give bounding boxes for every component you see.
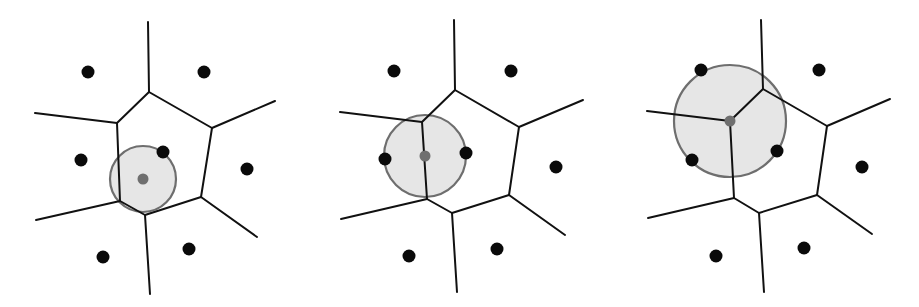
voronoi-edge <box>452 213 457 292</box>
voronoi-edge <box>148 22 149 92</box>
voronoi-edge <box>817 126 827 195</box>
voronoi-figure-canvas <box>0 0 919 307</box>
circle-center-point <box>420 151 431 162</box>
panel-circle-at-vertex <box>647 20 890 292</box>
voronoi-edge <box>35 113 117 123</box>
site-point <box>550 161 563 174</box>
site-point <box>505 65 518 78</box>
site-point <box>157 146 170 159</box>
site-point <box>379 153 392 166</box>
voronoi-edge <box>452 195 509 213</box>
site-point <box>813 64 826 77</box>
site-point <box>198 66 211 79</box>
voronoi-edge <box>509 127 519 195</box>
site-point <box>388 65 401 78</box>
site-point <box>686 154 699 167</box>
voronoi-edge <box>817 195 872 234</box>
voronoi-edge <box>117 92 149 123</box>
voronoi-edge <box>201 128 212 197</box>
voronoi-edge <box>212 101 275 128</box>
site-point <box>82 66 95 79</box>
site-point <box>97 251 110 264</box>
site-point <box>460 147 473 160</box>
circle-center-point <box>725 116 736 127</box>
voronoi-edge <box>827 99 890 126</box>
site-point <box>241 163 254 176</box>
voronoi-edge <box>509 195 565 235</box>
voronoi-diagram-figure <box>0 0 919 307</box>
voronoi-edge <box>519 100 583 127</box>
panel-circle-inside-cell <box>35 22 275 294</box>
voronoi-edge <box>759 213 764 292</box>
panel-circle-on-edge <box>340 20 583 292</box>
voronoi-edge <box>341 199 427 219</box>
site-point <box>491 243 504 256</box>
site-point <box>75 154 88 167</box>
voronoi-edge <box>455 90 519 127</box>
site-point <box>403 250 416 263</box>
voronoi-edge <box>648 198 734 218</box>
voronoi-edge <box>36 201 120 220</box>
voronoi-edge <box>201 197 257 237</box>
voronoi-edge <box>149 92 212 128</box>
voronoi-edge <box>759 195 817 213</box>
voronoi-edge <box>734 198 759 213</box>
site-point <box>695 64 708 77</box>
voronoi-edge <box>145 215 150 294</box>
site-point <box>856 161 869 174</box>
voronoi-edge <box>427 199 452 213</box>
voronoi-edge <box>454 20 455 90</box>
site-point <box>183 243 196 256</box>
site-point <box>771 145 784 158</box>
site-point <box>798 242 811 255</box>
site-point <box>710 250 723 263</box>
circle-center-point <box>138 174 149 185</box>
